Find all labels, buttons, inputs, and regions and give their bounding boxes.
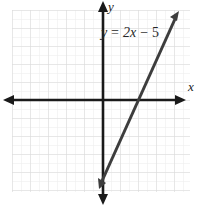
equation-operator: − (137, 25, 153, 40)
x-axis-label: x (188, 79, 194, 95)
y-axis-label: y (108, 0, 114, 15)
coordinate-plane-figure: y = 2x − 5 x y (0, 0, 207, 208)
equation-label: y = 2x − 5 (101, 25, 159, 41)
equation-slope-term: 2x (123, 25, 137, 40)
equation-intercept: 5 (152, 25, 159, 40)
equation-equals: = (107, 25, 123, 40)
